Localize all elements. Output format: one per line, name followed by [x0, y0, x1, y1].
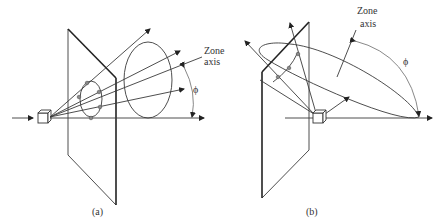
diffracted-ray-arrow: [290, 23, 316, 113]
diffraction-spot: [97, 90, 101, 94]
phi-label: ϕ: [403, 56, 408, 67]
diffracted-ray-arrow: [50, 89, 184, 117]
diffracted-ray-arrow: [325, 97, 349, 114]
zone-axis-label: axis: [204, 56, 220, 67]
kikuchi-circle: [80, 81, 102, 117]
zone-axis-label: Zone: [357, 5, 378, 16]
panel-a: Zone axis ϕ (a): [12, 29, 225, 218]
zone-axis-label: axis: [360, 18, 376, 29]
diffracted-ray-arrow: [50, 29, 150, 117]
diffraction-spot: [77, 95, 81, 99]
caption-a: (a): [92, 206, 103, 218]
diffracted-ray-arrow: [50, 51, 180, 117]
diffraction-cone-ellipse: [259, 43, 419, 118]
diffraction-spot: [287, 66, 291, 70]
diffraction-spot: [276, 75, 280, 79]
phi-label: ϕ: [193, 84, 198, 95]
panel-b: Zone axis ϕ (b): [245, 5, 432, 218]
detector-plane: [262, 22, 309, 198]
zone-axis-line: [337, 30, 356, 77]
angle-arc: [184, 67, 193, 117]
zone-axis-label: Zone: [204, 45, 225, 56]
crystal-icon: [38, 110, 51, 123]
crystal-icon: [313, 110, 326, 123]
caption-b: (b): [306, 206, 318, 218]
diffraction-spot: [98, 105, 102, 109]
diffraction-cone-ellipse: [124, 42, 172, 118]
diffraction-spot: [296, 52, 300, 56]
diffraction-spot: [89, 116, 93, 120]
diffraction-spot: [85, 81, 89, 85]
diffraction-diagram: Zone axis ϕ (a): [0, 0, 440, 223]
